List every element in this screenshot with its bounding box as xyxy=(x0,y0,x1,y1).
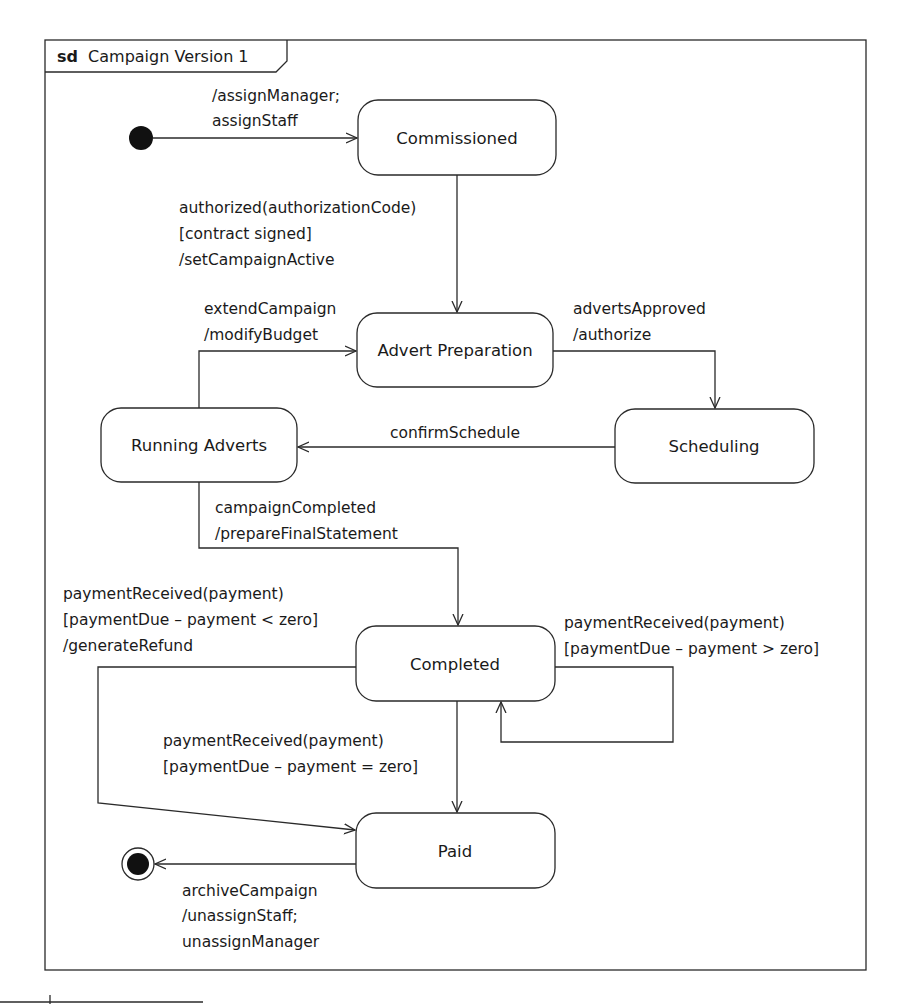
transition-label: campaignCompleted /prepareFinalStatement xyxy=(215,499,398,543)
transition-initial-to-commissioned: /assignManager; assignStaff xyxy=(153,87,357,138)
transition-running-to-advert-preparation: extendCampaign /modifyBudget xyxy=(199,300,356,408)
state-running-adverts[interactable]: Running Adverts xyxy=(101,408,297,482)
frame-name: Campaign Version 1 xyxy=(88,47,248,66)
state-label: Scheduling xyxy=(668,437,759,456)
transition-label: advertsApproved /authorize xyxy=(573,300,711,344)
state-label: Completed xyxy=(410,655,500,674)
state-completed[interactable]: Completed xyxy=(356,626,555,701)
transition-label: /assignManager; assignStaff xyxy=(212,87,345,130)
transition-label: archiveCampaign /unassignStaff; unassign… xyxy=(182,882,323,951)
transition-label: paymentReceived(payment) [paymentDue – p… xyxy=(564,614,819,658)
state-label: Running Adverts xyxy=(131,436,267,455)
transition-label: paymentReceived(payment) [paymentDue – p… xyxy=(163,732,418,776)
transition-label: authorized(authorizationCode) [contract … xyxy=(179,199,421,269)
transition-paid-to-final: archiveCampaign /unassignStaff; unassign… xyxy=(155,864,356,951)
frame-keyword: sd xyxy=(57,47,78,66)
initial-node xyxy=(129,126,153,150)
transition-label: extendCampaign /modifyBudget xyxy=(204,300,341,344)
frame-title: sd Campaign Version 1 xyxy=(57,47,249,66)
transition-completed-to-paid-exact: paymentReceived(payment) [paymentDue – p… xyxy=(163,701,457,812)
state-commissioned[interactable]: Commissioned xyxy=(358,100,556,175)
transition-label: confirmSchedule xyxy=(390,424,520,442)
state-machine-diagram: sd Campaign Version 1 Commissioned Adver… xyxy=(0,0,901,1004)
transition-advert-preparation-to-scheduling: advertsApproved /authorize xyxy=(553,300,715,408)
state-advert-preparation[interactable]: Advert Preparation xyxy=(357,313,553,387)
transition-running-to-completed: campaignCompleted /prepareFinalStatement xyxy=(199,482,458,625)
state-paid[interactable]: Paid xyxy=(356,813,555,888)
final-node xyxy=(122,848,154,880)
state-label: Advert Preparation xyxy=(377,341,532,360)
transition-label: paymentReceived(payment) [paymentDue – p… xyxy=(63,585,323,655)
state-scheduling[interactable]: Scheduling xyxy=(615,409,814,483)
state-label: Paid xyxy=(438,842,472,861)
state-label: Commissioned xyxy=(396,129,517,148)
transition-scheduling-to-running: confirmSchedule xyxy=(298,424,615,447)
transition-completed-to-paid-refund: paymentReceived(payment) [paymentDue – p… xyxy=(63,585,356,830)
transition-commissioned-to-advert-preparation: authorized(authorizationCode) [contract … xyxy=(179,175,457,312)
